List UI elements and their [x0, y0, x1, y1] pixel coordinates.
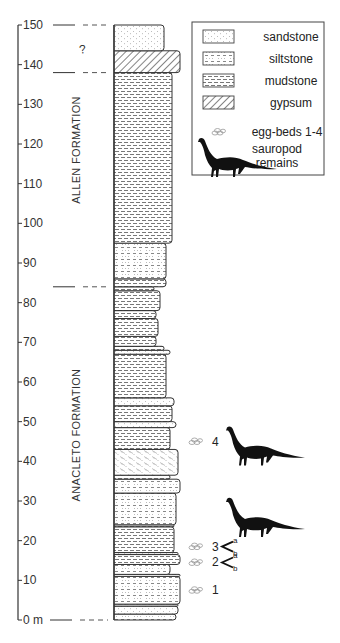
legend-swatch-gypsum: [203, 96, 234, 109]
egg-bed-icon: [189, 587, 203, 594]
layer-mudstone: [114, 73, 172, 244]
sauropod-icon: [226, 426, 305, 465]
egg-bed-label: 2: [212, 555, 219, 569]
egg-bed-label: 4: [212, 435, 219, 449]
axis-tick-label: 50: [23, 415, 37, 429]
layer-sandstone: [114, 25, 164, 51]
legend: sandstonesiltstonemudstonegypsumegg-beds…: [192, 22, 324, 177]
layer-mudstone: [114, 287, 154, 291]
axis-tick-label: 150: [23, 18, 43, 32]
egg-bed-label: 3: [212, 540, 219, 554]
legend-label-egg-beds: egg-beds 1-4: [252, 125, 323, 139]
axis-tick-label: 0 m: [23, 613, 43, 627]
uncertain-interval-mark: ?: [78, 42, 87, 57]
egg-bed-label: 1: [212, 583, 219, 597]
egg-bed-sub-b: b: [233, 564, 238, 573]
sauropod-icon: [226, 498, 305, 537]
layer-sandstone: [114, 422, 176, 428]
legend-label-mudstone: mudstone: [265, 74, 318, 88]
axis-tick-label: 110: [23, 177, 42, 191]
axis-tick-label: 100: [23, 216, 43, 230]
axis-tick-label: 30: [23, 494, 37, 508]
formation-labels: ALLEN FORMATIONANACLETO FORMATION: [70, 96, 82, 501]
layer-mudstone: [114, 406, 172, 422]
layer-gypsum: [114, 51, 180, 73]
layer-siltstone: [114, 576, 180, 604]
layer-siltstone: [114, 493, 176, 525]
legend-swatch-siltstone: [203, 52, 234, 65]
formation-label: ALLEN FORMATION: [70, 96, 82, 204]
legend-swatch-sandstone: [203, 30, 234, 43]
layer-mudstone: [114, 279, 166, 287]
layer-mudstone: [114, 291, 160, 311]
egg-bed-icon: [189, 559, 203, 566]
layer-mudstone: [114, 475, 170, 479]
axis-tick-label: 40: [23, 454, 37, 468]
egg-bed-sub-b: b: [233, 549, 238, 558]
egg-bed-icon: [189, 543, 203, 550]
axis-tick-label: 130: [23, 97, 43, 111]
legend-swatch-mudstone: [203, 74, 234, 87]
layer-siltstone: [114, 479, 180, 493]
legend-label-sauropod: sauropod: [252, 142, 302, 156]
axis-tick-label: 20: [23, 534, 37, 548]
layer-mudstone: [114, 319, 158, 337]
layer-sandstone: [114, 606, 178, 614]
egg-bed-icon: [189, 438, 203, 445]
layer-sandstone: [114, 350, 170, 354]
legend-label-siltstone: siltstone: [269, 52, 313, 66]
layer-mudstone: [114, 346, 164, 350]
legend-label-gypsum: gypsum: [270, 96, 312, 110]
legend-label-sandstone: sandstone: [263, 30, 319, 44]
layer-mudstone: [114, 555, 180, 565]
layer-mudstone: [114, 527, 174, 553]
layer-siltstone: [114, 243, 166, 279]
legend-label-remains: remains: [256, 156, 299, 170]
depth-axis: 0 m102030405060708090100110120130140150: [18, 18, 43, 627]
layer-mudstone: [114, 336, 156, 346]
layer-siltstone: [114, 564, 170, 574]
axis-tick-label: 90: [23, 256, 37, 270]
layer-siltstone: [114, 614, 176, 620]
axis-tick-label: 70: [23, 335, 37, 349]
axis-tick-label: 10: [23, 573, 37, 587]
stratigraphic-column: [114, 25, 180, 620]
axis-tick-label: 120: [23, 137, 43, 151]
fossil-markers: 12ab3ab4: [189, 426, 305, 597]
layer-mudstone: [114, 354, 166, 398]
layer-sandstone: [114, 398, 174, 406]
stratigraphic-diagram: 0 m102030405060708090100110120130140150 …: [0, 0, 340, 643]
layer-mudstone: [114, 311, 156, 319]
formation-label: ANACLETO FORMATION: [70, 369, 82, 502]
axis-tick-label: 140: [23, 58, 43, 72]
axis-tick-label: 60: [23, 375, 37, 389]
egg-bed-sub-a: a: [233, 536, 238, 545]
layer-mudstone: [114, 428, 170, 450]
axis-tick-label: 80: [23, 296, 37, 310]
layer-crossbedded-sandstone: [114, 449, 178, 475]
